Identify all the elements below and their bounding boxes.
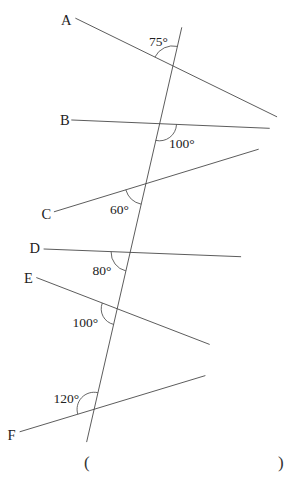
lines-layer: [20, 18, 277, 441]
angle-label-d: 80°: [93, 263, 112, 278]
line-label-d: D: [30, 240, 40, 256]
angle-arcs-layer: [77, 46, 177, 414]
angle-label-f: 120°: [54, 391, 80, 406]
line-f: [20, 376, 205, 432]
line-label-c: C: [42, 206, 52, 222]
angle-arc-d: [111, 252, 126, 271]
answer-close-paren: ): [278, 453, 284, 472]
line-a: [76, 18, 277, 116]
answer-open-paren: (: [84, 453, 90, 472]
angle-label-b: 100°: [169, 136, 195, 151]
angle-label-a: 75°: [149, 34, 168, 49]
angle-label-c: 60°: [110, 202, 129, 217]
angle-label-e: 100°: [73, 315, 99, 330]
line-e: [37, 278, 210, 345]
line-label-e: E: [24, 270, 33, 286]
line-label-a: A: [61, 12, 72, 28]
line-c: [54, 149, 258, 211]
line-b: [72, 120, 270, 128]
line-label-b: B: [60, 112, 70, 128]
line-label-f: F: [8, 427, 16, 443]
answer-blank: ( ): [84, 453, 284, 472]
geometry-diagram: ABCDEF75°100°60°80°100°120° ( ): [0, 0, 292, 491]
line-d: [44, 249, 241, 257]
transversal-line: [87, 28, 182, 442]
